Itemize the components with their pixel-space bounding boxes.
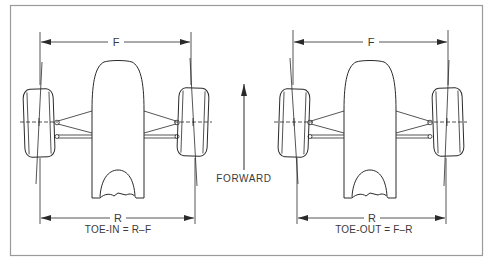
toe-in-panel: F R TOE-IN = R–F: [20, 32, 212, 235]
rear-dim-label: R: [114, 212, 122, 224]
toe-in-formula: TOE-IN = R–F: [85, 224, 151, 235]
car-body: [92, 61, 144, 199]
front-dim-label: F: [113, 36, 120, 48]
toe-out-formula: TOE-OUT = F–R: [335, 224, 413, 235]
rear-dimension: R: [298, 212, 445, 224]
front-dimension: F: [41, 36, 190, 48]
car-body: [344, 61, 396, 199]
forward-indicator: FORWARD: [216, 84, 271, 184]
toe-in-toe-out-diagram: F R TOE-IN = R–F: [0, 0, 489, 264]
rear-dim-label: R: [368, 212, 376, 224]
suspension-arms: [308, 111, 433, 139]
rear-dimension: R: [41, 212, 194, 224]
suspension-arms: [55, 111, 180, 139]
toe-out-panel: F R TOE-OUT = F–R: [274, 30, 467, 235]
forward-label: FORWARD: [216, 173, 271, 184]
front-dimension: F: [294, 36, 447, 48]
right-wheel-axis-line: [444, 60, 449, 186]
front-dim-label: F: [368, 36, 375, 48]
